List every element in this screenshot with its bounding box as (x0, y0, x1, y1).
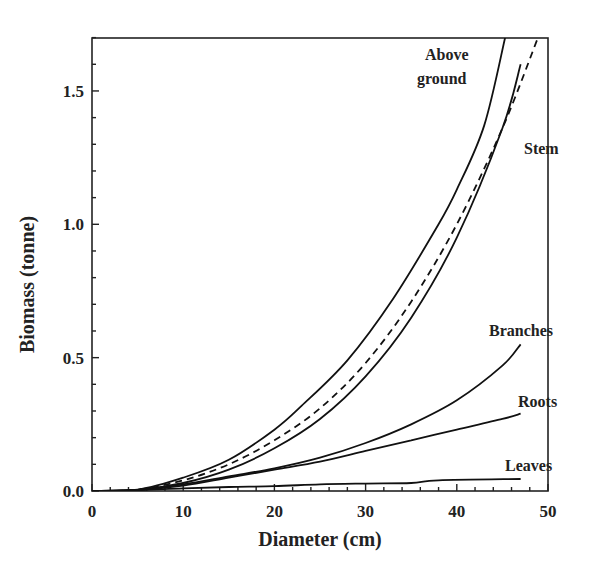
x-tick-label: 20 (266, 502, 283, 521)
x-tick-label: 40 (448, 502, 465, 521)
chart: 010203040500.00.51.01.5Diameter (cm)Biom… (0, 0, 611, 579)
x-axis-title: Diameter (cm) (258, 528, 381, 551)
series-label: Stem (524, 140, 559, 157)
y-tick-label: 1.0 (63, 215, 84, 234)
plot-frame (92, 38, 548, 491)
x-tick-label: 0 (88, 502, 97, 521)
x-tick-label: 50 (540, 502, 557, 521)
chart-canvas: 010203040500.00.51.01.5Diameter (cm)Biom… (0, 0, 611, 579)
series-line-stem (92, 64, 521, 491)
series-label: Roots (518, 393, 557, 410)
x-tick-label: 10 (175, 502, 192, 521)
y-tick-label: 0.5 (63, 349, 84, 368)
x-tick-label: 30 (357, 502, 374, 521)
series-label: ground (417, 70, 467, 88)
series-line-branches (92, 344, 521, 491)
series-label: Above (425, 46, 469, 63)
series-label: Leaves (505, 457, 552, 474)
y-axis-title: Biomass (tonne) (16, 216, 39, 353)
y-tick-label: 1.5 (63, 82, 84, 101)
series-label: Branches (489, 322, 553, 339)
y-tick-label: 0.0 (63, 482, 84, 501)
